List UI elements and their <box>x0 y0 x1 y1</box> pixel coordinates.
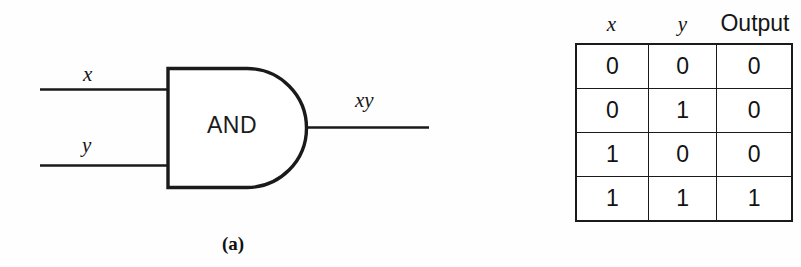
cell-x: 0 <box>576 89 648 133</box>
table-row: 1 0 0 <box>576 133 792 177</box>
input-label-y: y <box>82 133 91 158</box>
cell-x: 0 <box>576 44 648 89</box>
cell-x: 1 <box>576 133 648 177</box>
table-row: 0 0 0 <box>576 44 792 89</box>
figure-container: x y xy AND (a) x y Output 0 0 0 0 1 0 <box>0 0 801 267</box>
cell-output: 1 <box>717 177 792 222</box>
cell-output: 0 <box>717 133 792 177</box>
cell-y: 1 <box>648 177 716 222</box>
truth-table-panel: x y Output 0 0 0 0 1 0 1 0 0 <box>575 0 801 267</box>
table-row: 1 1 1 <box>576 177 792 222</box>
subfigure-caption-a: (a) <box>203 233 263 255</box>
table-row: 0 1 0 <box>576 89 792 133</box>
cell-x: 1 <box>576 177 648 222</box>
cell-output: 0 <box>717 89 792 133</box>
cell-output: 0 <box>717 44 792 89</box>
and-gate-diagram: x y xy AND (a) <box>0 0 480 267</box>
truth-table: 0 0 0 0 1 0 1 0 0 1 1 1 <box>575 43 793 222</box>
output-label-xy: xy <box>355 88 374 113</box>
cell-y: 0 <box>648 133 716 177</box>
cell-y: 0 <box>648 44 716 89</box>
column-header-output: Output <box>717 5 793 39</box>
cell-y: 1 <box>648 89 716 133</box>
truth-table-header-row: x y Output <box>575 5 793 39</box>
column-header-y: y <box>648 5 717 39</box>
input-label-x: x <box>83 62 92 87</box>
column-header-x: x <box>575 5 648 39</box>
and-gate-text: AND <box>167 112 297 139</box>
